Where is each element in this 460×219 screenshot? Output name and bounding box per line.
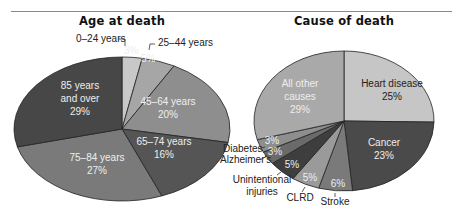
pct-85-over: 29% (70, 106, 90, 117)
pct-all-other: 29% (290, 104, 310, 115)
pct-clrd: 5% (303, 172, 318, 183)
label-all-other-line2: causes (284, 91, 316, 102)
label-all-other-line1: All other (282, 78, 319, 89)
pct-75-84: 27% (87, 165, 107, 176)
label-65-74: 65–74 years (136, 136, 191, 147)
charts-canvas: 0–24 years 3% 25–44 years 5% 45–64 years… (0, 0, 460, 219)
label-25-44: 25–44 years (158, 37, 213, 48)
pct-stroke: 6% (331, 178, 346, 189)
label-unintentional-line2: injuries (246, 186, 278, 197)
label-45-64: 45–64 years (140, 96, 195, 107)
label-alzheimers: Alzheimer's (220, 154, 271, 165)
label-diabetes: Diabetes (223, 143, 262, 154)
cause-pie-chart (254, 51, 434, 191)
label-75-84: 75–84 years (69, 152, 124, 163)
pct-45-64: 20% (158, 109, 178, 120)
label-unintentional-line1: Unintentional (233, 174, 291, 185)
label-0-24: 0–24 years (76, 33, 125, 44)
pct-0-24: 3% (124, 45, 139, 56)
label-stroke: Stroke (321, 196, 350, 207)
pct-unintentional: 5% (285, 159, 300, 170)
label-cancer: Cancer (368, 137, 401, 148)
age-pie-chart (14, 57, 230, 201)
label-85-over-line2: and over (61, 93, 101, 104)
pct-diabetes: 3% (265, 135, 280, 146)
pct-65-74: 16% (154, 149, 174, 160)
pct-heart-disease: 25% (382, 91, 402, 102)
pct-25-44: 5% (141, 53, 156, 64)
pct-cancer: 23% (374, 150, 394, 161)
label-85-over-line1: 85 years (61, 80, 99, 91)
label-clrd: CLRD (286, 192, 313, 203)
label-heart-disease: Heart disease (361, 78, 423, 89)
